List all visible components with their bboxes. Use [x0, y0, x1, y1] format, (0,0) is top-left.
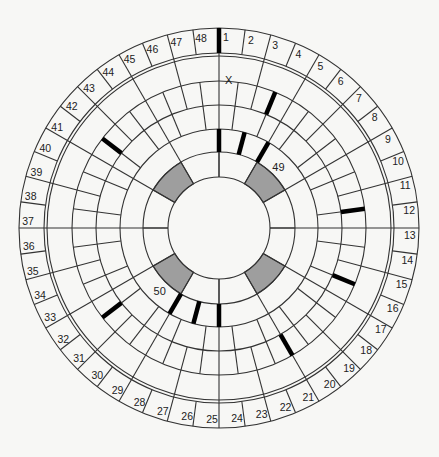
- radial-position-chart: 1234567891011121314151617181920212223242…: [0, 0, 439, 457]
- spoke-line: [193, 402, 196, 427]
- spoke-line: [286, 43, 296, 66]
- special-label: 50: [154, 285, 166, 297]
- sector-label: 27: [157, 405, 169, 417]
- sector-label: 47: [171, 36, 183, 48]
- sector-label: 29: [112, 384, 124, 396]
- marker-bar: [257, 142, 269, 162]
- sector-label: 36: [23, 240, 35, 252]
- sector-label: 8: [372, 111, 378, 123]
- sector-label: 35: [27, 265, 39, 277]
- sector-label: 32: [57, 333, 69, 345]
- sector-label: 31: [73, 352, 85, 364]
- spoke-line: [257, 319, 275, 363]
- sector-label: 30: [91, 369, 103, 381]
- shaded-cell: [245, 254, 285, 294]
- shaded-cell: [153, 162, 193, 202]
- sector-label: 17: [375, 323, 387, 335]
- marker-bar: [170, 294, 182, 314]
- sector-label: 13: [404, 229, 416, 241]
- spokes: [19, 28, 419, 428]
- spoke-line: [251, 35, 271, 109]
- spoke-line: [21, 202, 46, 205]
- sector-label: 40: [39, 142, 51, 154]
- sector-label: 22: [280, 401, 292, 413]
- sector-label: 48: [195, 32, 207, 44]
- sector-label: 11: [400, 179, 411, 191]
- sector-label: 25: [206, 413, 218, 425]
- spoke-line: [310, 172, 354, 190]
- spoke-line: [26, 176, 100, 196]
- spoke-line: [83, 266, 127, 284]
- sector-label: 33: [44, 311, 56, 323]
- sector-label: 9: [385, 133, 391, 145]
- ring-circle: [168, 177, 270, 279]
- sector-label: 20: [324, 378, 336, 390]
- special-label: 49: [272, 161, 284, 173]
- sector-label: 19: [343, 362, 355, 374]
- sector-label: 43: [83, 82, 95, 94]
- spoke-line: [163, 319, 181, 363]
- sector-label: 45: [124, 53, 136, 65]
- markers: [102, 28, 364, 355]
- sector-label: 44: [103, 66, 115, 78]
- sector-label: 14: [401, 254, 413, 266]
- sector-label: 1: [223, 31, 229, 43]
- sector-label: 42: [66, 100, 78, 112]
- sector-label: 15: [396, 278, 408, 290]
- sector-label: 46: [147, 43, 159, 55]
- sector-label: 7: [356, 92, 362, 104]
- sector-label: 18: [360, 344, 372, 356]
- sector-label: 21: [303, 391, 315, 403]
- sector-label: 37: [22, 215, 34, 227]
- sector-label: 26: [181, 410, 193, 422]
- sector-label: 41: [51, 121, 63, 133]
- marker-bar: [239, 132, 245, 154]
- sector-label: 4: [296, 48, 302, 60]
- special-label: X: [225, 74, 233, 86]
- spoke-line: [163, 92, 181, 136]
- marker-bar: [333, 275, 355, 284]
- sector-label: 5: [318, 60, 324, 72]
- marker-bar: [266, 92, 275, 114]
- marker-bar: [281, 335, 293, 356]
- sector-label: 34: [34, 289, 46, 301]
- sector-label: 24: [231, 412, 243, 424]
- sector-label: 38: [25, 190, 37, 202]
- sector-label: 23: [256, 408, 268, 420]
- sector-label: 28: [134, 396, 146, 408]
- sector-label: 12: [403, 204, 415, 216]
- sector-label: 6: [338, 75, 344, 87]
- marker-bar: [102, 139, 121, 154]
- sector-label: 39: [31, 166, 43, 178]
- shaded-cells: [153, 162, 285, 294]
- spoke-line: [242, 30, 245, 55]
- sector-label: 16: [387, 302, 399, 314]
- sector-label: 2: [248, 34, 254, 46]
- marker-bar: [102, 303, 121, 318]
- sector-label: 3: [272, 39, 278, 51]
- marker-bar: [341, 209, 365, 212]
- sector-label: 10: [392, 155, 404, 167]
- marker-bar: [193, 301, 199, 323]
- spoke-line: [83, 172, 127, 190]
